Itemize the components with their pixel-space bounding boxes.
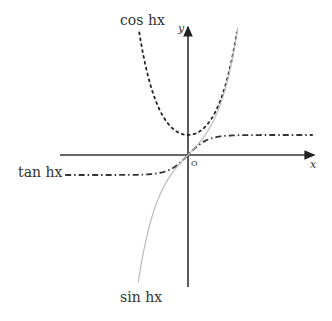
origin-label: O xyxy=(191,159,198,168)
hyperbolic-functions-chart: x y O cos hx tan hx sin hx xyxy=(0,0,332,321)
x-axis-label: x xyxy=(310,158,317,171)
legend-label-tanh: tan hx xyxy=(18,164,62,180)
y-axis-label: y xyxy=(177,22,185,35)
legend-label-sinh: sin hx xyxy=(120,289,162,305)
legend-label-cosh: cos hx xyxy=(120,12,165,28)
